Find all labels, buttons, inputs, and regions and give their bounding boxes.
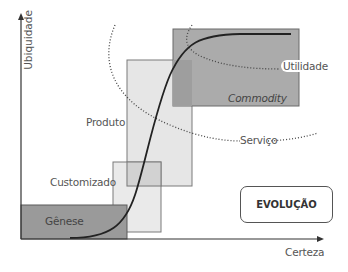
genese-label: Gênese bbox=[45, 215, 83, 227]
service-label: Serviço bbox=[240, 134, 277, 146]
x-axis-arrow-icon bbox=[317, 236, 324, 242]
evolution-badge: EVOLUÇÃO bbox=[240, 186, 333, 223]
customizado-label: Customizado bbox=[50, 176, 116, 188]
diagram-graphics bbox=[0, 0, 348, 272]
utility-label: Utilidade bbox=[281, 60, 330, 72]
produto-label: Produto bbox=[86, 116, 125, 128]
commodity-label: Commodity bbox=[228, 92, 287, 104]
evolution-diagram: Ubiquidade Certeza Gênese Customizado Pr… bbox=[0, 0, 348, 272]
x-axis-label: Certeza bbox=[285, 246, 324, 258]
y-axis-label: Ubiquidade bbox=[22, 10, 34, 70]
